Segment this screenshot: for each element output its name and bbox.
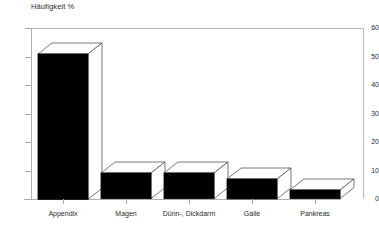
y-axis-tick <box>25 57 31 58</box>
x-axis-category-label: Dünn-, Dickdarm <box>163 210 216 217</box>
x-axis-tick <box>315 199 316 204</box>
y-axis-tick-label: 0 <box>357 195 379 202</box>
y-axis-tick-label: 40 <box>357 81 379 88</box>
y-axis-tick-label: 20 <box>357 138 379 145</box>
x-axis-category-label: Appendix <box>48 210 77 217</box>
chart-container: Häufigkeit % 0102030405060 AppendixMagen… <box>0 0 379 233</box>
y-axis-tick-label: 50 <box>357 53 379 60</box>
y-axis-tick-label: 30 <box>357 110 379 117</box>
plot-area: 0102030405060 AppendixMagenDünn-, Dickda… <box>0 0 379 233</box>
x-axis-category-label: Pankreas <box>300 210 330 217</box>
y-axis-tick <box>25 171 31 172</box>
x-axis-tick <box>189 199 190 204</box>
x-axis-tick <box>126 199 127 204</box>
y-axis-tick-label: 10 <box>357 167 379 174</box>
bar-d-nn-dickdarm <box>164 162 228 199</box>
x-axis-tick <box>63 199 64 204</box>
bar-appendix <box>38 43 102 199</box>
bar-pankreas <box>290 179 354 199</box>
x-axis-tick <box>252 199 253 204</box>
y-axis-tick <box>25 142 31 143</box>
x-axis-baseline <box>24 199 341 200</box>
y-axis-tick <box>25 114 31 115</box>
bar-magen <box>101 162 165 199</box>
y-axis-tick <box>25 85 31 86</box>
x-axis-category-label: Magen <box>115 210 136 217</box>
y-axis-tick <box>25 199 31 200</box>
x-axis-category-label: Galle <box>244 210 260 217</box>
bar-galle <box>227 168 291 199</box>
y-axis-tick <box>25 28 31 29</box>
y-axis-line <box>31 28 32 199</box>
y-axis-tick-label: 60 <box>357 24 379 31</box>
